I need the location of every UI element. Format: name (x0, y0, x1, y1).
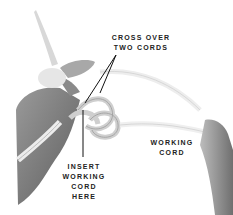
label-line: WORKING (60, 172, 108, 182)
right-hand (200, 120, 233, 215)
label-line: CORD (148, 148, 196, 158)
label-working-cord: WORKING CORD (148, 138, 196, 158)
label-line: CROSS OVER (106, 33, 176, 43)
label-line: WORKING (148, 138, 196, 148)
label-line: INSERT (60, 162, 108, 172)
label-line: HERE (60, 192, 108, 202)
frayed-cord-end (34, 10, 58, 66)
annotated-photo: CROSS OVER TWO CORDS INSERT WORKING CORD… (0, 0, 233, 215)
label-line: CORD (60, 182, 108, 192)
label-cross-over-two-cords: CROSS OVER TWO CORDS (106, 33, 176, 53)
label-insert-working-cord-here: INSERT WORKING CORD HERE (60, 162, 108, 202)
label-line: TWO CORDS (106, 43, 176, 53)
long-cord (100, 71, 200, 110)
